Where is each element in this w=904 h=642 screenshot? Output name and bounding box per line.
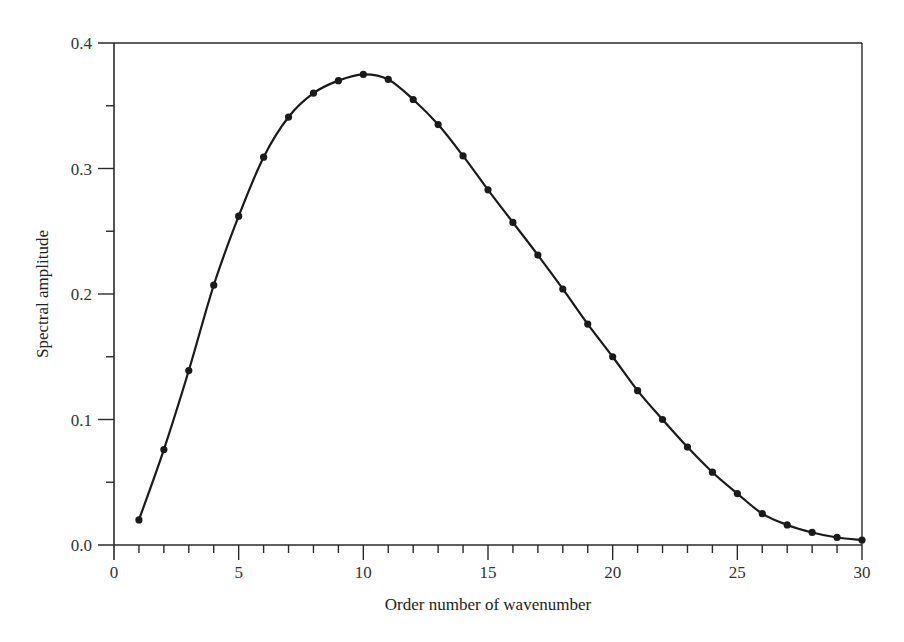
- x-tick-label: 30: [854, 563, 871, 582]
- data-point-marker: [559, 285, 566, 292]
- data-point-marker: [335, 77, 342, 84]
- data-point-marker: [809, 529, 816, 536]
- data-point-marker: [684, 444, 691, 451]
- x-tick-label: 0: [110, 563, 119, 582]
- data-point-marker: [385, 76, 392, 83]
- data-point-marker: [310, 90, 317, 97]
- data-point-marker: [534, 251, 541, 258]
- data-point-marker: [260, 154, 267, 161]
- data-point-marker: [235, 213, 242, 220]
- x-axis-ticks: 051015202530: [110, 545, 871, 582]
- data-point-marker: [759, 510, 766, 517]
- y-tick-label: 0.1: [71, 411, 92, 430]
- data-point-marker: [858, 536, 865, 543]
- y-tick-label: 0.0: [71, 536, 92, 555]
- x-axis-label: Order number of wavenumber: [385, 595, 592, 614]
- data-point-marker: [160, 446, 167, 453]
- data-point-marker: [634, 387, 641, 394]
- data-point-marker: [584, 321, 591, 328]
- series-line: [139, 74, 862, 540]
- x-tick-label: 10: [355, 563, 372, 582]
- data-point-marker: [609, 353, 616, 360]
- x-tick-label: 20: [604, 563, 621, 582]
- data-point-marker: [484, 186, 491, 193]
- data-point-marker: [285, 113, 292, 120]
- x-tick-label: 15: [480, 563, 497, 582]
- data-point-marker: [210, 282, 217, 289]
- data-point-marker: [833, 534, 840, 541]
- plot-frame: [98, 43, 862, 560]
- y-axis-label: Spectral amplitude: [33, 230, 52, 358]
- y-tick-label: 0.3: [71, 160, 92, 179]
- data-point-marker: [459, 152, 466, 159]
- x-tick-label: 5: [234, 563, 243, 582]
- data-point-marker: [410, 96, 417, 103]
- data-point-marker: [709, 469, 716, 476]
- data-point-marker: [509, 219, 516, 226]
- data-point-marker: [135, 516, 142, 523]
- data-point-marker: [185, 367, 192, 374]
- data-point-marker: [659, 416, 666, 423]
- y-tick-label: 0.2: [71, 285, 92, 304]
- data-point-marker: [360, 71, 367, 78]
- data-point-marker: [734, 490, 741, 497]
- data-point-marker: [784, 521, 791, 528]
- data-point-marker: [435, 121, 442, 128]
- x-tick-label: 25: [729, 563, 746, 582]
- spectral-amplitude-chart: 051015202530 0.00.10.20.30.4 Order numbe…: [0, 0, 904, 642]
- y-axis-ticks: 0.00.10.20.30.4: [71, 34, 114, 555]
- y-tick-label: 0.4: [71, 34, 93, 53]
- data-series: [135, 71, 865, 544]
